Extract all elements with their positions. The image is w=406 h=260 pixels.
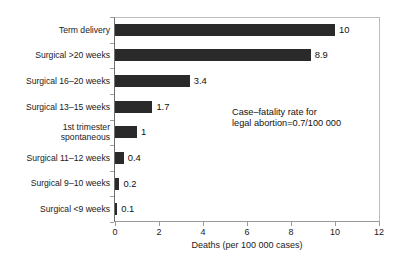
x-axis-tick bbox=[291, 222, 292, 226]
bar-value-label: 8.9 bbox=[315, 49, 328, 61]
chart-row: 1st trimesterspontaneous1 bbox=[0, 120, 406, 146]
bar-value-label: 0.4 bbox=[128, 152, 141, 164]
bar-value-label: 0.2 bbox=[123, 178, 136, 190]
category-label: Surgical <9 weeks bbox=[0, 196, 116, 222]
category-label: Surgical 13–15 weeks bbox=[0, 94, 116, 120]
x-axis-tick-label: 6 bbox=[244, 227, 249, 237]
y-axis-tick bbox=[110, 222, 114, 223]
bar bbox=[115, 24, 335, 36]
chart-row: Term delivery10 bbox=[0, 17, 406, 43]
bar-value-label: 1.7 bbox=[156, 101, 169, 113]
category-label-line: Surgical 13–15 weeks bbox=[26, 102, 110, 112]
y-axis-tick bbox=[110, 196, 114, 197]
bar-container: 1.7 bbox=[115, 94, 169, 120]
x-axis-tick-label: 0 bbox=[112, 227, 117, 237]
chart-rows: Term delivery10Surgical >20 weeks8.9Surg… bbox=[0, 17, 406, 222]
bar bbox=[115, 178, 119, 190]
x-axis-tick-label: 4 bbox=[200, 227, 205, 237]
category-label-line: Surgical 9–10 weeks bbox=[31, 178, 110, 188]
bar-container: 1 bbox=[115, 120, 146, 146]
x-axis-tick bbox=[159, 222, 160, 226]
category-label-line: Surgical 11–12 weeks bbox=[27, 153, 110, 163]
bar-container: 10 bbox=[115, 17, 349, 43]
category-label-line: Surgical 16–20 weeks bbox=[26, 76, 110, 86]
category-label-line: 1st trimester bbox=[63, 122, 110, 132]
bar-container: 0.2 bbox=[115, 171, 136, 197]
bar bbox=[115, 126, 137, 138]
bar-value-label: 10 bbox=[339, 24, 349, 36]
x-axis-tick bbox=[247, 222, 248, 226]
x-axis-tick bbox=[379, 222, 380, 226]
x-axis-tick bbox=[203, 222, 204, 226]
bar-container: 8.9 bbox=[115, 43, 328, 69]
bar-value-label: 3.4 bbox=[194, 75, 207, 87]
chart-row: Surgical 9–10 weeks0.2 bbox=[0, 171, 406, 197]
x-axis: Deaths (per 100 000 cases) 024681012 bbox=[114, 222, 380, 260]
bar-chart: Term delivery10Surgical >20 weeks8.9Surg… bbox=[0, 0, 406, 260]
bar-container: 0.1 bbox=[115, 196, 134, 222]
x-axis-tick-label: 12 bbox=[374, 227, 384, 237]
y-axis-tick bbox=[110, 120, 114, 121]
annotation-line: legal abortion=0.7/100 000 bbox=[232, 118, 341, 129]
bar-container: 3.4 bbox=[115, 68, 207, 94]
chart-row: Surgical <9 weeks0.1 bbox=[0, 196, 406, 222]
bar bbox=[115, 75, 190, 87]
x-axis-tick bbox=[335, 222, 336, 226]
x-axis-title: Deaths (per 100 000 cases) bbox=[114, 240, 380, 250]
bar bbox=[115, 152, 124, 164]
category-label: Surgical 11–12 weeks bbox=[0, 145, 116, 171]
category-label: Surgical 16–20 weeks bbox=[0, 68, 116, 94]
chart-row: Surgical 11–12 weeks0.4 bbox=[0, 145, 406, 171]
chart-row: Surgical >20 weeks8.9 bbox=[0, 43, 406, 69]
y-axis-tick bbox=[110, 145, 114, 146]
y-axis-tick bbox=[110, 94, 114, 95]
bar-container: 0.4 bbox=[115, 145, 141, 171]
x-axis-tick-label: 10 bbox=[330, 227, 340, 237]
category-label: Surgical 9–10 weeks bbox=[0, 171, 116, 197]
chart-annotation: Case–fatality rate forlegal abortion=0.7… bbox=[232, 107, 341, 130]
category-label: 1st trimesterspontaneous bbox=[0, 120, 116, 146]
category-label-line: Term delivery bbox=[59, 25, 110, 35]
category-label-line: spontaneous bbox=[61, 132, 110, 142]
x-axis-tick-label: 8 bbox=[288, 227, 293, 237]
bar bbox=[115, 101, 152, 113]
bar bbox=[115, 49, 311, 61]
y-axis-tick bbox=[110, 171, 114, 172]
category-label-line: Surgical >20 weeks bbox=[35, 50, 110, 60]
category-label: Surgical >20 weeks bbox=[0, 43, 116, 69]
bar-value-label: 1 bbox=[141, 126, 146, 138]
y-axis-tick bbox=[110, 43, 114, 44]
chart-row: Surgical 16–20 weeks3.4 bbox=[0, 68, 406, 94]
category-label-line: Surgical <9 weeks bbox=[40, 204, 110, 214]
annotation-line: Case–fatality rate for bbox=[232, 107, 341, 118]
y-axis-tick bbox=[110, 17, 114, 18]
bar-value-label: 0.1 bbox=[121, 203, 134, 215]
category-label: Term delivery bbox=[0, 17, 116, 43]
bar bbox=[115, 203, 117, 215]
chart-row: Surgical 13–15 weeks1.7 bbox=[0, 94, 406, 120]
x-axis-tick bbox=[115, 222, 116, 226]
y-axis-tick bbox=[110, 68, 114, 69]
x-axis-tick-label: 2 bbox=[156, 227, 161, 237]
